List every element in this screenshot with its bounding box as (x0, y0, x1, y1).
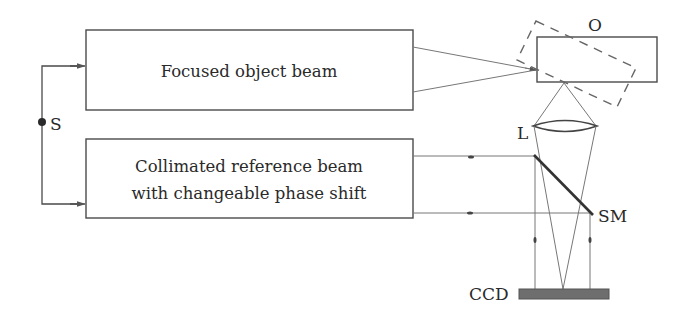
object-beam-rays (413, 47, 536, 92)
reference-beam-label-line1: Collimated reference beam (135, 157, 363, 176)
reference-beam-label-line2: with changeable phase shift (132, 184, 367, 203)
semi-mirror: SM (534, 155, 627, 226)
source-label: S (50, 114, 62, 134)
object-to-lens-rays (534, 83, 596, 126)
object: O (537, 15, 657, 82)
object-beam-label: Focused object beam (161, 62, 338, 81)
lens-label: L (517, 123, 528, 143)
reference-beam-box: Collimated reference beam with changeabl… (86, 139, 413, 218)
ccd-detector: CCD (469, 284, 609, 304)
source-dot (38, 118, 46, 126)
optical-setup-diagram: S Focused object beam Collimated referen… (0, 0, 686, 313)
lens: L (517, 121, 597, 144)
mirror-label: SM (598, 206, 627, 226)
reference-beam-rays (413, 156, 592, 290)
ccd-label: CCD (469, 284, 509, 304)
object-label: O (588, 15, 602, 35)
source-splitter: S (38, 66, 85, 204)
object-beam-box: Focused object beam (86, 30, 413, 110)
